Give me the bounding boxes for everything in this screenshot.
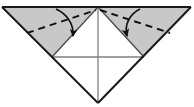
fold-diagram-canvas: [0, 0, 194, 107]
origami-diagram-root: Inverted triangle of folded paper with t…: [0, 0, 194, 107]
